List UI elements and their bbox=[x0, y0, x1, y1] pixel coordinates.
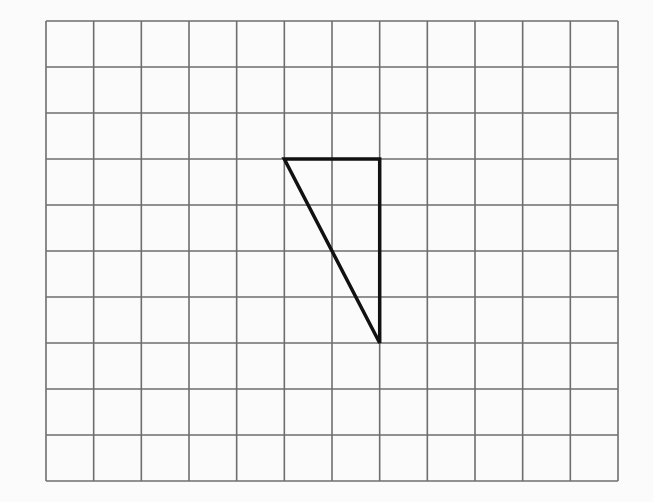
grid-diagram bbox=[0, 0, 653, 502]
